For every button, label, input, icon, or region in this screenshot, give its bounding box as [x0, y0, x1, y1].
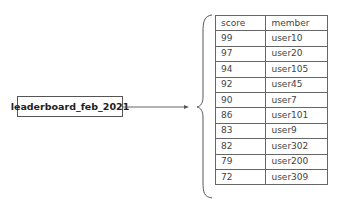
table-row: 97 user20 — [216, 46, 328, 61]
table-row: 92 user45 — [216, 77, 328, 92]
score-cell: 99 — [216, 31, 266, 46]
table-row: 83 user9 — [216, 123, 328, 138]
score-cell: 90 — [216, 92, 266, 107]
table-row: 82 user302 — [216, 139, 328, 154]
score-cell: 94 — [216, 62, 266, 77]
table-row: 90 user7 — [216, 92, 328, 107]
score-cell: 97 — [216, 46, 266, 61]
member-cell: user200 — [266, 154, 328, 169]
curly-brace-icon — [197, 15, 212, 198]
arrow-icon — [123, 105, 189, 109]
score-cell: 72 — [216, 169, 266, 184]
member-cell: user101 — [266, 108, 328, 123]
score-cell: 86 — [216, 108, 266, 123]
member-cell: user105 — [266, 62, 328, 77]
table-header-row: score member — [216, 16, 328, 31]
score-cell: 92 — [216, 77, 266, 92]
member-cell: user9 — [266, 123, 328, 138]
header-score: score — [216, 16, 266, 31]
score-cell: 79 — [216, 154, 266, 169]
member-cell: user7 — [266, 92, 328, 107]
header-member: member — [266, 16, 328, 31]
member-cell: user20 — [266, 46, 328, 61]
table-row: 99 user10 — [216, 31, 328, 46]
table-row: 79 user200 — [216, 154, 328, 169]
table-row: 86 user101 — [216, 108, 328, 123]
sorted-set-table: score member 99 user10 97 user20 94 user… — [215, 15, 328, 185]
score-cell: 83 — [216, 123, 266, 138]
table-row: 72 user309 — [216, 169, 328, 184]
member-cell: user45 — [266, 77, 328, 92]
member-cell: user302 — [266, 139, 328, 154]
table-row: 94 user105 — [216, 62, 328, 77]
member-cell: user10 — [266, 31, 328, 46]
score-cell: 82 — [216, 139, 266, 154]
member-cell: user309 — [266, 169, 328, 184]
